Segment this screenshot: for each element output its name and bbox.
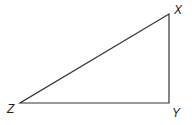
triangle-diagram: X Y Z bbox=[0, 0, 192, 125]
vertex-label-y: Y bbox=[172, 106, 181, 120]
vertex-label-z: Z bbox=[6, 102, 15, 116]
vertex-label-x: X bbox=[173, 3, 183, 17]
triangle-xyz bbox=[20, 14, 169, 103]
